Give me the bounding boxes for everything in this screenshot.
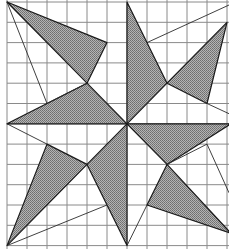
line-10-5-to-right (207, 104, 229, 114)
star-grid-diagram (0, 0, 229, 249)
shaded-triangles (7, 2, 229, 246)
bottom-right-triangle (147, 164, 229, 233)
